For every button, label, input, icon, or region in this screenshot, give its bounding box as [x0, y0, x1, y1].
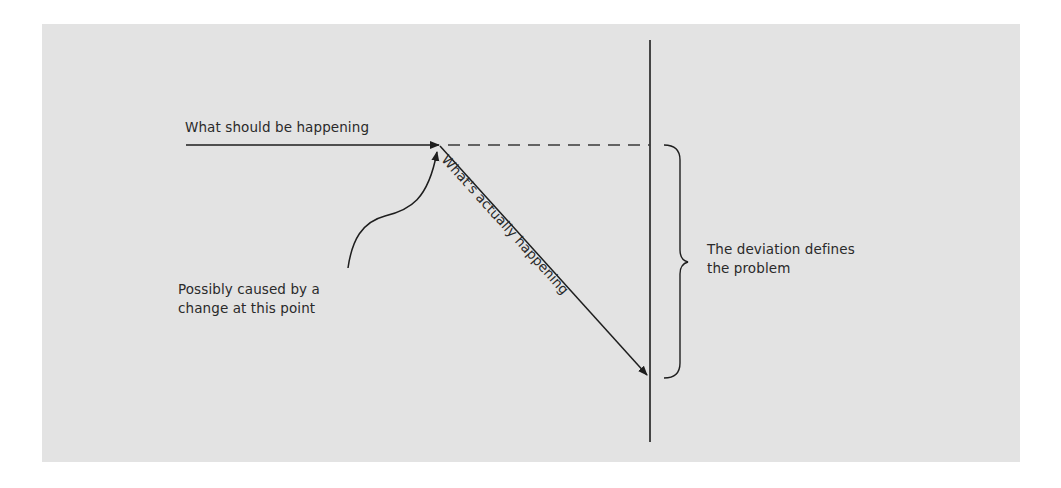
cause-label-line2: change at this point — [178, 298, 315, 318]
deviation-label-line2: the problem — [707, 258, 790, 278]
cause-curved-arrow — [348, 152, 437, 268]
cause-label-line1: Possibly caused by a — [178, 279, 320, 299]
deviation-label-line1: The deviation defines — [707, 239, 855, 259]
expected-label: What should be happening — [185, 117, 369, 137]
deviation-brace — [664, 145, 688, 378]
